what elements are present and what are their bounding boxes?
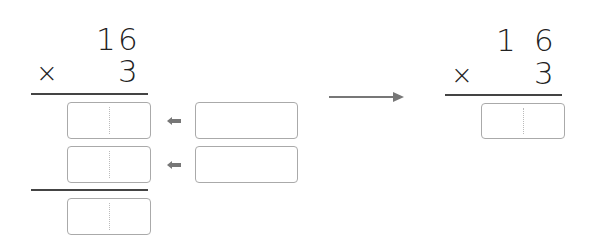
right-multiplicand-tens: 1 [496, 25, 516, 56]
right-product-line [445, 94, 562, 96]
digit-divider [109, 151, 110, 178]
arrow-left-icon [167, 161, 181, 169]
digit-divider [523, 108, 524, 134]
partial-product-box-1[interactable] [67, 102, 151, 139]
partial-product-box-2[interactable] [67, 146, 151, 183]
expression-box-2[interactable] [195, 146, 298, 183]
sum-box[interactable] [67, 198, 151, 235]
answer-box[interactable] [481, 103, 565, 139]
left-multiplicand-ones: 6 [118, 24, 138, 55]
arrow-right-icon [329, 91, 405, 103]
left-sum-line [31, 189, 148, 191]
left-multiplicand-tens: 1 [96, 24, 116, 55]
left-multiplier: 3 [118, 56, 138, 87]
digit-divider [109, 107, 110, 134]
left-product-line [31, 93, 148, 95]
right-multiplier: 3 [534, 58, 554, 89]
arrow-left-icon [167, 117, 181, 125]
left-operator: × [36, 58, 58, 89]
right-operator: × [451, 60, 473, 91]
digit-divider [109, 203, 110, 230]
right-multiplicand-ones: 6 [534, 25, 554, 56]
expression-box-1[interactable] [195, 102, 298, 139]
